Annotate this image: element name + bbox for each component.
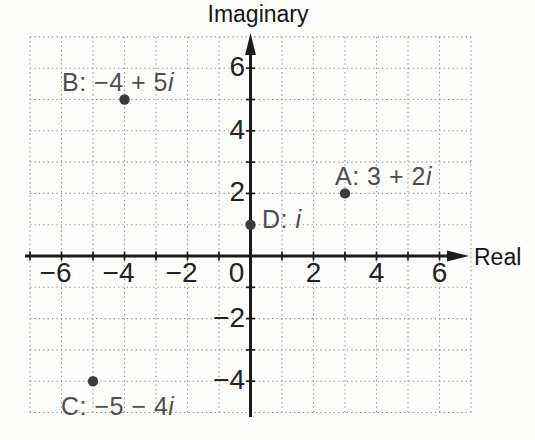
x-tick-label-6: 6 (432, 258, 448, 288)
y-tick-label--4: −4 (175, 365, 245, 395)
point-label-imaginary-unit: i (295, 205, 301, 233)
y-tick-label-4: 4 (175, 115, 245, 145)
point-label-text: D: (262, 205, 295, 233)
point-label-A: A: 3 + 2i (335, 162, 432, 191)
x-tick-label--4: −4 (103, 258, 135, 288)
complex-plane-figure: Imaginary Real −6−4−20246642−2−4A: 3 + 2… (0, 0, 535, 440)
imaginary-axis-title: Imaginary (175, 1, 341, 27)
point-C (88, 376, 98, 386)
point-label-D: D: i (262, 205, 302, 234)
y-tick-label-6: 6 (175, 52, 245, 82)
y-tick-label-2: 2 (175, 177, 245, 207)
x-tick-label-2: 2 (306, 258, 322, 288)
x-tick-label-4: 4 (369, 258, 385, 288)
imaginary-axis-arrowhead (245, 33, 256, 55)
point-label-C: C: −5 − 4i (61, 392, 174, 421)
point-label-B: B: −4 + 5i (62, 68, 174, 97)
point-label-text: B: −4 + 5 (62, 68, 168, 96)
x-tick-label-0: 0 (229, 258, 245, 288)
x-tick-label--6: −6 (40, 258, 72, 288)
x-tick-label--2: −2 (166, 258, 198, 288)
point-label-text: A: 3 + 2 (335, 162, 426, 190)
point-label-imaginary-unit: i (426, 162, 432, 190)
point-D (245, 220, 255, 230)
point-label-text: C: −5 − 4 (61, 392, 168, 420)
real-axis-arrowhead (447, 251, 469, 262)
real-axis-title: Real (474, 244, 521, 270)
point-label-imaginary-unit: i (168, 392, 174, 420)
point-label-imaginary-unit: i (168, 68, 174, 96)
y-tick-label--2: −2 (175, 303, 245, 333)
